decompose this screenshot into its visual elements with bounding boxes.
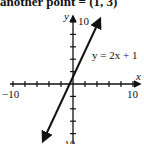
y-axis-label: y — [63, 10, 69, 22]
x-max-label: 10 — [127, 88, 139, 100]
y-min-label: −10 — [58, 138, 76, 144]
coordinate-plane: y 10 x −10 10 −10 y = 2x + 1 — [0, 0, 144, 144]
x-axis-label: x — [135, 70, 141, 82]
x-min-label: −10 — [2, 88, 20, 100]
line-equation-label: y = 2x + 1 — [92, 49, 137, 61]
line-y-2x-plus-1 — [43, 19, 100, 141]
y-max-label: 10 — [78, 15, 90, 27]
x-axis — [10, 81, 140, 87]
